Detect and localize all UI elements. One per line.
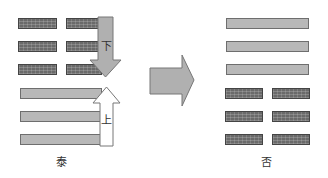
right-yang-line-2 <box>226 41 309 52</box>
right-yin-line-3-left <box>225 134 263 145</box>
down-arrow-label: 下 <box>101 37 112 53</box>
right-yin-line-1-left <box>225 88 263 99</box>
up-arrow-label: 上 <box>101 111 112 127</box>
right-yin-line-2-right <box>272 111 310 122</box>
right-yang-line-1 <box>226 18 309 29</box>
right-yang-line-3 <box>226 64 309 75</box>
right-hexagram-label: 否 <box>261 153 272 169</box>
right-yin-line-1-right <box>272 88 310 99</box>
right-arrow-icon <box>150 55 194 106</box>
right-yin-line-3-right <box>272 134 310 145</box>
right-yin-line-2-left <box>225 111 263 122</box>
left-hexagram-label: 泰 <box>56 153 67 169</box>
